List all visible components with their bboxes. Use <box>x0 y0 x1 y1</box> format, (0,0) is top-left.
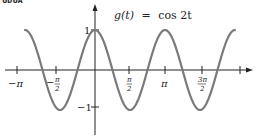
x-tick-label-3pi-half: 3π 2 <box>198 76 208 93</box>
denominator: 2 <box>126 85 132 93</box>
numerator: π <box>54 76 60 84</box>
x-axis-arrow-icon <box>246 68 253 73</box>
title-equals: = <box>142 9 151 22</box>
x-tick-label-neg-pi: −π <box>8 78 23 89</box>
chart-title: g(t) = cos 2t <box>114 9 192 22</box>
y-axis-arrow-icon <box>93 4 98 11</box>
cos-2t-graph: ᴜᴅᴜᴀ g(t) = cos 2t 1 −1 −π − π 2 π 2 <box>0 0 259 137</box>
denominator: 2 <box>199 85 205 93</box>
x-tick-label-pi-half: π 2 <box>126 76 132 93</box>
numerator: 3π <box>198 76 207 84</box>
title-rhs: cos 2t <box>158 9 192 22</box>
y-tick-label-neg-1: −1 <box>77 102 92 113</box>
title-function: g(t) <box>114 9 134 22</box>
x-tick-label-pi: π <box>160 78 168 89</box>
numerator: π <box>126 76 132 84</box>
denominator: 2 <box>54 85 60 93</box>
cropped-header-text: ᴜᴅᴜᴀ <box>2 0 24 5</box>
